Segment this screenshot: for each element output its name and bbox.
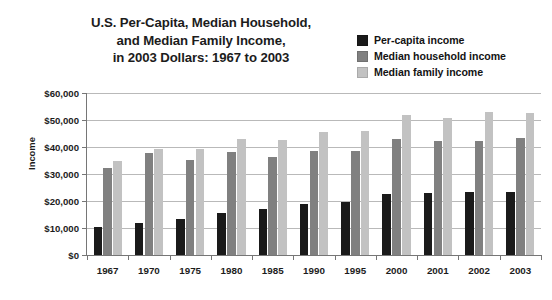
x-tick-label-1985: 1985 <box>262 265 284 276</box>
bar-1970-series-1[interactable] <box>145 153 154 255</box>
legend-label-2: Median family income <box>374 66 483 78</box>
x-tick-mark-5 <box>293 255 294 260</box>
bar-2003-series-1[interactable] <box>516 138 525 255</box>
y-tick-label-0: $0 <box>68 250 79 261</box>
bar-2001-series-2[interactable] <box>443 118 452 255</box>
y-axis-title: Income <box>26 119 37 189</box>
bar-1970-series-0[interactable] <box>135 223 144 255</box>
bar-group-1985 <box>252 93 293 255</box>
x-tick-mark-6 <box>335 255 336 260</box>
chart-legend: Per-capita incomeMedian household income… <box>357 33 506 81</box>
legend-entry-1[interactable]: Median household income <box>357 49 506 64</box>
bar-1985-series-1[interactable] <box>268 157 277 255</box>
chart-title-line-1: U.S. Per-Capita, Median Household, <box>60 14 342 32</box>
legend-label-0: Per-capita income <box>374 34 464 46</box>
y-tick-label-2: $20,000 <box>44 196 79 207</box>
bars-layer <box>87 93 541 255</box>
bar-group-2001 <box>417 93 458 255</box>
bar-1990-series-0[interactable] <box>300 204 309 255</box>
legend-entry-0[interactable]: Per-capita income <box>357 33 506 48</box>
bar-1995-series-0[interactable] <box>341 202 350 255</box>
legend-label-1: Median household income <box>374 50 506 62</box>
bar-group-2003 <box>500 93 541 255</box>
bar-group-1975 <box>170 93 211 255</box>
bar-1975-series-2[interactable] <box>196 149 205 255</box>
legend-entry-2[interactable]: Median family income <box>357 65 506 80</box>
x-tick-label-1967: 1967 <box>97 265 119 276</box>
bar-2000-series-0[interactable] <box>382 194 391 255</box>
x-tick-mark-end <box>541 255 542 260</box>
bar-group-1980 <box>211 93 252 255</box>
y-tick-label-5: $50,000 <box>44 115 79 126</box>
bar-1990-series-2[interactable] <box>319 132 328 255</box>
legend-swatch-icon-2 <box>357 67 368 78</box>
bar-1970-series-2[interactable] <box>154 149 163 255</box>
x-tick-mark-1 <box>128 255 129 260</box>
bar-2002-series-0[interactable] <box>465 192 474 255</box>
income-bar-chart: U.S. Per-Capita, Median Household,and Me… <box>0 0 552 300</box>
x-tick-mark-9 <box>458 255 459 260</box>
bar-2001-series-0[interactable] <box>424 193 433 255</box>
bar-1980-series-1[interactable] <box>227 152 236 255</box>
x-tick-label-2003: 2003 <box>509 265 531 276</box>
bar-1995-series-1[interactable] <box>351 151 360 255</box>
bar-group-1970 <box>128 93 169 255</box>
bar-2003-series-0[interactable] <box>506 192 515 255</box>
bar-2001-series-1[interactable] <box>434 141 443 255</box>
chart-title-line-3: in 2003 Dollars: 1967 to 2003 <box>60 49 342 67</box>
bar-group-1967 <box>87 93 128 255</box>
bar-1967-series-2[interactable] <box>113 161 122 255</box>
bar-1985-series-0[interactable] <box>259 209 268 255</box>
bar-1975-series-1[interactable] <box>186 160 195 255</box>
bar-1980-series-0[interactable] <box>217 213 226 255</box>
bar-1985-series-2[interactable] <box>278 140 287 255</box>
x-tick-mark-0 <box>87 255 88 260</box>
x-tick-mark-2 <box>170 255 171 260</box>
bar-2000-series-1[interactable] <box>392 139 401 255</box>
x-tick-label-1990: 1990 <box>303 265 325 276</box>
x-tick-label-2000: 2000 <box>386 265 408 276</box>
bar-group-2002 <box>458 93 499 255</box>
y-tick-label-1: $10,000 <box>44 223 79 234</box>
bar-1980-series-2[interactable] <box>237 139 246 255</box>
x-tick-mark-3 <box>211 255 212 260</box>
bar-1995-series-2[interactable] <box>361 131 370 255</box>
bar-1967-series-0[interactable] <box>94 227 103 255</box>
bar-2003-series-2[interactable] <box>526 113 535 255</box>
chart-title: U.S. Per-Capita, Median Household,and Me… <box>60 14 342 67</box>
x-tick-label-1995: 1995 <box>344 265 366 276</box>
bar-1975-series-0[interactable] <box>176 219 185 255</box>
x-tick-mark-4 <box>252 255 253 260</box>
y-tick-label-4: $40,000 <box>44 142 79 153</box>
bar-2000-series-2[interactable] <box>402 115 411 255</box>
bar-1990-series-1[interactable] <box>310 151 319 255</box>
x-tick-mark-10 <box>500 255 501 260</box>
x-tick-label-2002: 2002 <box>468 265 490 276</box>
legend-swatch-icon-0 <box>357 35 368 46</box>
bar-group-1995 <box>335 93 376 255</box>
x-tick-label-1975: 1975 <box>179 265 201 276</box>
x-tick-mark-8 <box>417 255 418 260</box>
chart-title-line-2: and Median Family Income, <box>60 32 342 50</box>
plot-area: $0$10,000$20,000$30,000$40,000$50,000$60… <box>86 93 541 256</box>
bar-group-2000 <box>376 93 417 255</box>
bar-group-1990 <box>293 93 334 255</box>
bar-1967-series-1[interactable] <box>103 168 112 255</box>
x-tick-label-1970: 1970 <box>138 265 160 276</box>
y-tick-label-3: $30,000 <box>44 169 79 180</box>
x-tick-label-1980: 1980 <box>221 265 243 276</box>
x-tick-label-2001: 2001 <box>427 265 449 276</box>
bar-2002-series-2[interactable] <box>485 112 494 255</box>
legend-swatch-icon-1 <box>357 51 368 62</box>
x-tick-mark-7 <box>376 255 377 260</box>
bar-2002-series-1[interactable] <box>475 141 484 255</box>
y-tick-label-6: $60,000 <box>44 88 79 99</box>
